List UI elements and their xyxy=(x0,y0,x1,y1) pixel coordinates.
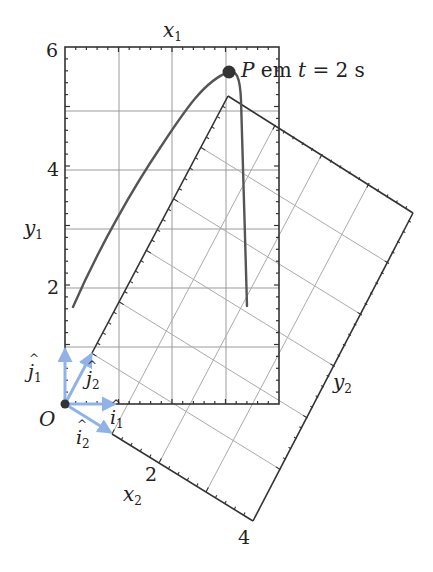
x2-tick-2: 2 xyxy=(145,465,157,484)
diagram-canvas xyxy=(0,0,433,572)
frame1-grid xyxy=(65,47,279,404)
origin-label: O xyxy=(39,409,55,429)
frame2-border xyxy=(92,96,413,521)
j2-label: j2 xyxy=(86,369,100,388)
origin-point xyxy=(61,400,70,409)
j1-label: j1 xyxy=(28,362,42,381)
y1-axis-label: y1 xyxy=(24,218,43,238)
x2-axis-label: x2 xyxy=(123,484,142,504)
trajectory-curve xyxy=(73,72,247,307)
y1-tick-4: 4 xyxy=(47,160,59,179)
x2-tick-4: 4 xyxy=(238,528,250,547)
x1-axis-label: x1 xyxy=(163,20,182,40)
y1-tick-6: 6 xyxy=(46,41,58,60)
kinematics-diagram: x1 y1 6 4 2 P em t = 2 s y2 x2 2 4 O j1 … xyxy=(0,0,433,572)
y1-tick-2: 2 xyxy=(47,278,59,297)
y2-axis-label: y2 xyxy=(333,372,352,392)
point-p-marker xyxy=(223,66,236,79)
i2-label: i2 xyxy=(76,428,90,447)
frame2-grid xyxy=(92,125,389,492)
point-p-caption: P em t = 2 s xyxy=(241,60,365,80)
i1-label: i1 xyxy=(110,408,124,427)
